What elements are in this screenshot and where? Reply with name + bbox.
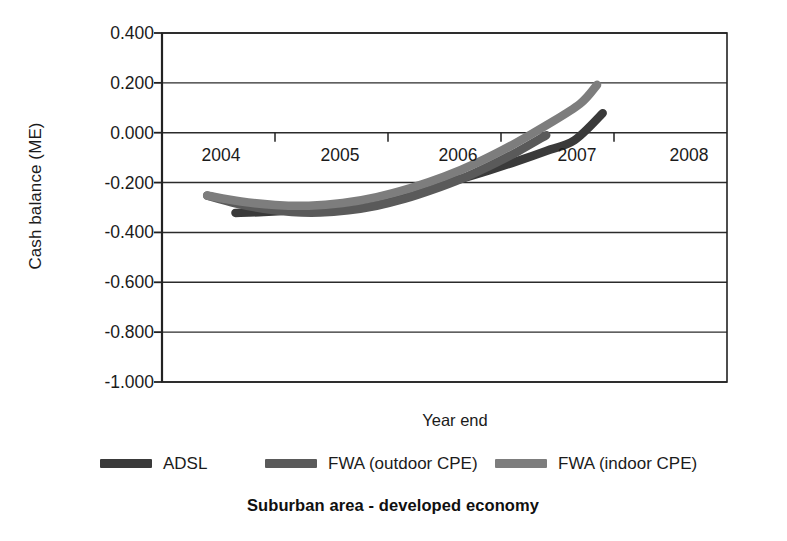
legend-item-adsl[interactable]: ADSL bbox=[100, 452, 207, 474]
legend-swatch-fwa-indoor bbox=[495, 459, 547, 468]
legend-label-fwa-outdoor: FWA (outdoor CPE) bbox=[328, 455, 478, 472]
x-tick-label-2008: 2008 bbox=[639, 147, 739, 165]
y-axis-ticks bbox=[154, 33, 162, 382]
legend-swatch-fwa-outdoor bbox=[265, 459, 317, 468]
legend-label-fwa-indoor: FWA (indoor CPE) bbox=[558, 455, 697, 472]
x-tick-label-2005: 2005 bbox=[290, 147, 390, 165]
chart-legend: ADSL FWA (outdoor CPE) FWA (indoor CPE) bbox=[0, 452, 787, 474]
legend-label-adsl: ADSL bbox=[163, 455, 207, 472]
x-tick-label-2004: 2004 bbox=[171, 147, 271, 165]
x-axis-title: Year end bbox=[355, 411, 555, 430]
legend-item-fwa-indoor[interactable]: FWA (indoor CPE) bbox=[495, 452, 697, 474]
legend-swatch-adsl bbox=[100, 459, 152, 468]
x-tick-label-2006: 2006 bbox=[408, 147, 508, 165]
chart-title: Suburban area - developed economy bbox=[193, 496, 593, 515]
chart-figure: Cash balance (ME) 0.400 0.200 0.000 -0.2… bbox=[0, 0, 787, 541]
x-tick-label-2007: 2007 bbox=[527, 147, 627, 165]
legend-item-fwa-outdoor[interactable]: FWA (outdoor CPE) bbox=[265, 452, 478, 474]
